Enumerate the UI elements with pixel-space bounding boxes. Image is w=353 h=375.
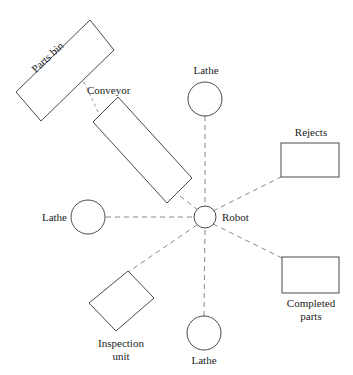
lathe-top-shape — [188, 82, 222, 116]
parts-bin-shape — [16, 20, 114, 121]
rejects-shape — [281, 143, 339, 177]
lathe-left-label: Lathe — [42, 211, 67, 223]
diagram-canvas: Parts bin Conveyor Lathe Lathe Lathe Rob… — [0, 0, 353, 375]
lathe-top-label: Lathe — [193, 64, 218, 76]
completed-parts-label-line1: Completed — [287, 297, 336, 309]
conveyor-label: Conveyor — [87, 84, 131, 96]
rejects-label: Rejects — [295, 126, 327, 138]
inspection-unit-label-line1: Inspection — [98, 337, 144, 349]
link-lathe-bottom-to-robot — [204, 228, 205, 316]
conveyor-shape — [93, 97, 192, 203]
completed-parts-label-line2: parts — [300, 310, 321, 322]
lathe-bottom-shape — [187, 316, 221, 350]
lathe-bottom-label: Lathe — [191, 354, 216, 366]
link-robot-to-completed-parts — [213, 224, 282, 258]
link-conveyor-to-robot — [180, 196, 198, 210]
link-robot-to-inspection-unit — [128, 225, 197, 272]
inspection-unit-shape — [89, 271, 154, 331]
inspection-unit-label-line2: unit — [112, 350, 129, 362]
robot-cell-diagram: Parts bin Conveyor Lathe Lathe Lathe Rob… — [0, 0, 353, 375]
lathe-left-shape — [71, 200, 105, 234]
robot-label: Robot — [222, 211, 249, 223]
robot-shape — [194, 206, 216, 228]
completed-parts-shape — [282, 257, 339, 293]
link-robot-to-rejects — [213, 177, 281, 211]
